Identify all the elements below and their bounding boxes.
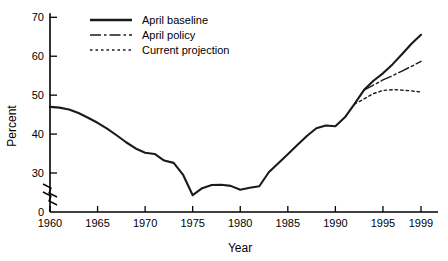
y-tick-label: 60 [32, 50, 44, 62]
chart-legend: April baselineApril policyCurrent projec… [90, 14, 229, 56]
y-tick-label: 30 [32, 167, 44, 179]
line-chart: 3040506070019601965197019751980198519901… [0, 0, 448, 261]
x-tick-label: 1960 [38, 217, 62, 229]
legend-label: April policy [142, 29, 196, 41]
y-tick-label: 70 [32, 11, 44, 23]
legend-label: April baseline [142, 14, 208, 26]
x-tick-label: 1970 [133, 217, 157, 229]
x-tick-label: 1975 [180, 217, 204, 229]
y-tick-label: 50 [32, 89, 44, 101]
x-tick-label: 1985 [276, 217, 300, 229]
x-tick-label: 1965 [85, 217, 109, 229]
x-tick-label: 1990 [323, 217, 347, 229]
y-axis-title: Percent [5, 105, 19, 147]
series-line [354, 90, 421, 104]
x-tick-label: 1999 [409, 217, 433, 229]
chart-plot-area [50, 35, 421, 195]
chart-figure: 3040506070019601965197019751980198519901… [0, 0, 448, 261]
legend-label: Current projection [142, 44, 229, 56]
series-line [50, 35, 421, 195]
x-axis-title: Year [228, 241, 252, 255]
x-tick-label: 1995 [371, 217, 395, 229]
x-tick-label: 1980 [228, 217, 252, 229]
y-tick-label: 40 [32, 128, 44, 140]
